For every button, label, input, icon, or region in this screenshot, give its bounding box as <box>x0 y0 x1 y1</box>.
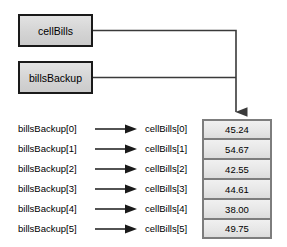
cell-value: 45.24 <box>225 124 249 135</box>
backup-element-label: billsBackup[0] <box>18 119 77 139</box>
reference-box-cellbills-label: cellBills <box>38 25 73 37</box>
table-row: billsBackup[4] cellBills[4] 38.00 <box>0 199 287 219</box>
cell-value-box: 38.00 <box>202 199 272 219</box>
array-element-rows: billsBackup[0] cellBills[0] 45.24 billsB… <box>0 119 287 239</box>
cell-value-box: 54.67 <box>202 139 272 159</box>
array-reference-diagram: cellBills billsBackup billsBackup[0] cel… <box>0 0 287 247</box>
table-row: billsBackup[1] cellBills[1] 54.67 <box>0 139 287 159</box>
backup-element-label: billsBackup[3] <box>18 179 77 199</box>
row-arrow-icon <box>95 179 139 199</box>
row-arrow-icon <box>95 119 139 139</box>
cell-element-label: cellBills[1] <box>145 139 187 159</box>
row-arrow-icon <box>95 139 139 159</box>
cell-value: 42.55 <box>225 164 249 175</box>
backup-element-label: billsBackup[5] <box>18 219 77 239</box>
cell-value: 44.61 <box>225 184 249 195</box>
reference-box-billsbackup-label: billsBackup <box>29 72 82 84</box>
row-arrow-icon <box>95 159 139 179</box>
cell-element-label: cellBills[0] <box>145 119 187 139</box>
cell-value-box: 49.75 <box>202 219 272 239</box>
backup-element-label: billsBackup[1] <box>18 139 77 159</box>
row-arrow-icon <box>95 219 139 239</box>
table-row: billsBackup[3] cellBills[3] 44.61 <box>0 179 287 199</box>
cell-value: 54.67 <box>225 144 249 155</box>
cell-element-label: cellBills[5] <box>145 219 187 239</box>
backup-element-label: billsBackup[2] <box>18 159 77 179</box>
table-row: billsBackup[0] cellBills[0] 45.24 <box>0 119 287 139</box>
reference-box-cellbills: cellBills <box>18 14 93 47</box>
table-row: billsBackup[2] cellBills[2] 42.55 <box>0 159 287 179</box>
connector-cellbills-to-array <box>93 31 236 113</box>
cell-value-box: 45.24 <box>202 119 272 139</box>
cell-element-label: cellBills[3] <box>145 179 187 199</box>
backup-element-label: billsBackup[4] <box>18 199 77 219</box>
cell-value: 38.00 <box>225 204 249 215</box>
cell-element-label: cellBills[4] <box>145 199 187 219</box>
cell-element-label: cellBills[2] <box>145 159 187 179</box>
row-arrow-icon <box>95 199 139 219</box>
cell-value: 49.75 <box>225 223 249 234</box>
reference-box-billsbackup: billsBackup <box>18 61 93 94</box>
cell-value-box: 42.55 <box>202 159 272 179</box>
cell-value-box: 44.61 <box>202 179 272 199</box>
table-row: billsBackup[5] cellBills[5] 49.75 <box>0 219 287 239</box>
